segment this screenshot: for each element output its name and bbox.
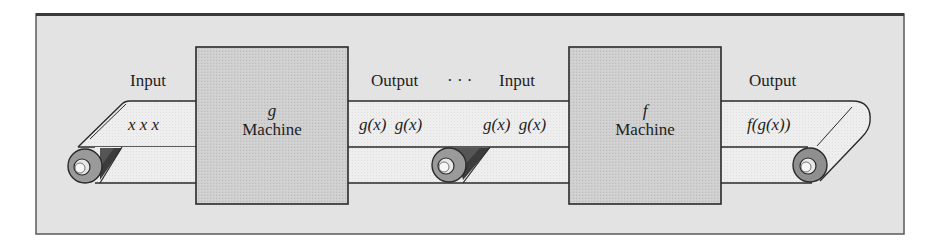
output-belt-contents: f(g(x)) xyxy=(747,116,790,133)
input-label: Input xyxy=(130,72,166,89)
f-machine-label: Machine xyxy=(615,120,674,139)
g-machine: g Machine xyxy=(196,102,348,138)
g-machine-label: Machine xyxy=(242,120,301,139)
middle-belt xyxy=(348,101,569,183)
second-input-label: Input xyxy=(499,72,535,89)
g-function-name: g xyxy=(196,102,348,119)
ellipsis: · · · xyxy=(447,72,472,89)
composition-diagram: Input x x x g Machine Output · · · Input… xyxy=(0,0,933,241)
middle-belt-right-contents: g(x) g(x) xyxy=(483,116,546,133)
input-belt-contents: x x x xyxy=(128,116,159,133)
f-machine: f Machine xyxy=(569,102,721,138)
middle-belt-left-contents: g(x) g(x) xyxy=(359,116,422,133)
final-output-label: Output xyxy=(749,72,796,89)
f-function-name: f xyxy=(569,102,721,119)
output-label: Output xyxy=(371,72,418,89)
